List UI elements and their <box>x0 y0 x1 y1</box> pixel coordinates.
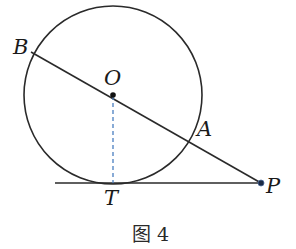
label-p: P <box>265 174 281 198</box>
label-a: A <box>195 117 212 141</box>
label-b: B <box>12 35 28 59</box>
figure-caption: 图 4 <box>132 223 169 245</box>
geometry-figure: B O A P T 图 4 <box>0 0 296 249</box>
label-t: T <box>104 186 120 210</box>
point-p-dot <box>258 180 264 186</box>
point-o-dot <box>110 92 116 98</box>
secant-line-bp <box>31 52 261 183</box>
label-o: O <box>104 66 121 90</box>
